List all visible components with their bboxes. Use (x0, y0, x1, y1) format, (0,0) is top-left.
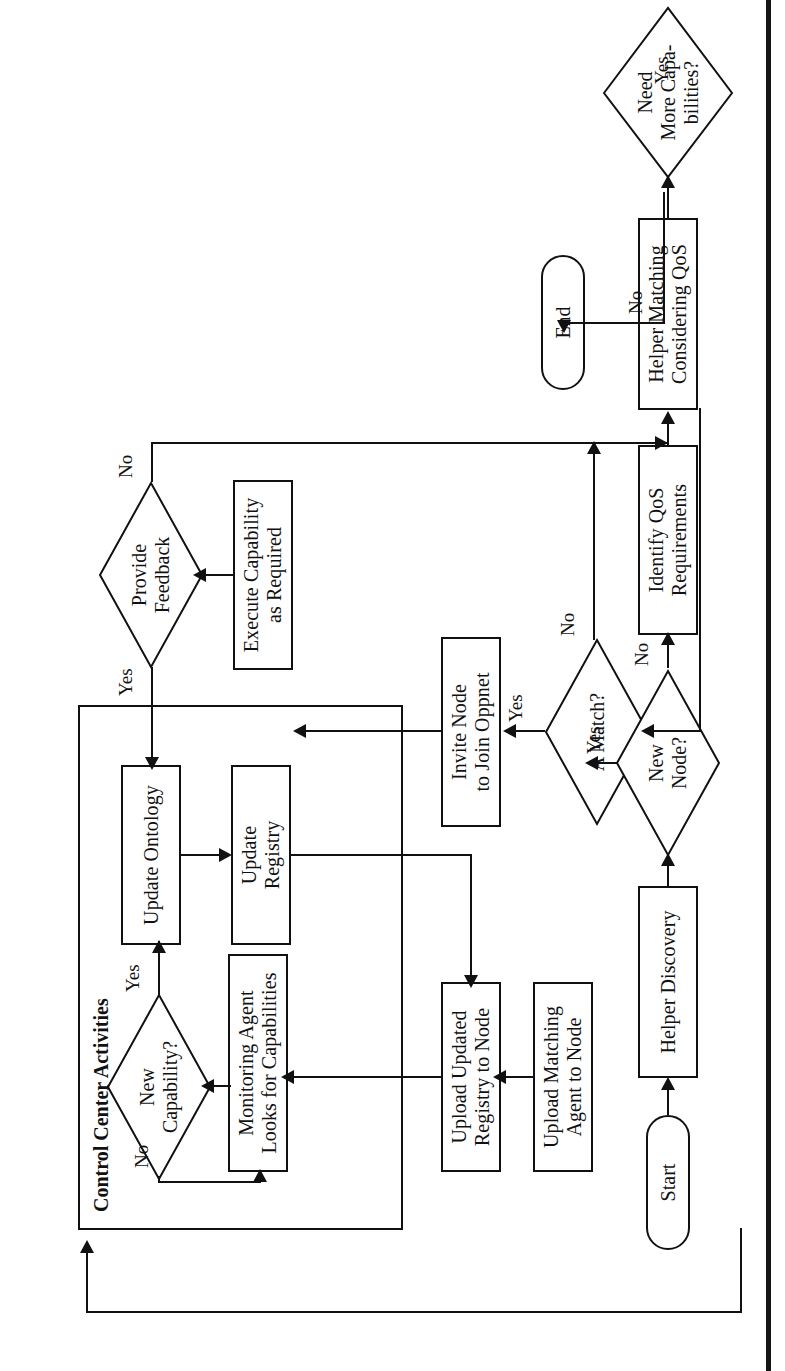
edge-need-more-yes-up-to-helper (86, 1250, 88, 1312)
arrowhead-new-node-no (661, 632, 675, 645)
edge-label-provide-feedback-yes: Yes (115, 668, 137, 696)
arrowhead-start-to-helper (661, 1077, 675, 1090)
edge-label-provide-feedback-no: No (115, 455, 137, 478)
edge-invite-to-execute (301, 730, 443, 732)
arrowhead-new-capability-no (253, 1169, 267, 1182)
edge-label-a-match-yes: Yes (505, 694, 527, 722)
arrowhead-helper-matching-to-a-match (641, 724, 654, 738)
edge-label-a-match-no: No (557, 613, 579, 636)
arrowhead-new-node-yes (585, 756, 598, 770)
edge-update-ontology-to-update-registry (181, 854, 223, 856)
arrowhead-a-match-yes (503, 724, 516, 738)
edge-label-new-capability-yes: Yes (122, 964, 144, 992)
node-update-ontology: Update Ontology (121, 765, 181, 945)
node-monitoring-agent: Monitoring Agent Looks for Capabilities (228, 954, 288, 1172)
arrowhead-invite-to-execute (293, 724, 306, 738)
flowchart-stage: Control Center Activities Monitoring Age… (0, 0, 785, 1371)
arrowhead-provide-feedback-yes (145, 757, 159, 770)
edge-provide-feedback-no-stub (151, 442, 153, 482)
arrowhead-new-capability-yes (152, 940, 166, 953)
node-update-registry-line1: Update (238, 826, 260, 884)
node-invite-node: Invite Node to Join Oppnet (441, 637, 501, 827)
edge-need-more-no-horizontal (663, 192, 665, 324)
node-upload-matching-agent: Upload Matching Agent to Node (533, 982, 593, 1172)
node-helper-discovery-label: Helper Discovery (657, 910, 680, 1053)
edge-upload-matching-to-upload-registry (501, 1076, 535, 1078)
figure-page: Control Center Activities Monitoring Age… (0, 0, 785, 1371)
edge-start-to-helper-discovery (667, 1088, 669, 1115)
node-upload-updated-registry-line1: Upload Updated (448, 1011, 470, 1144)
node-invite-node-line1: Invite Node (448, 684, 470, 780)
node-new-node: New Node? (614, 668, 722, 858)
edge-need-more-yes-horizontal (86, 1311, 742, 1313)
edge-update-registry-down (291, 854, 471, 856)
edge-label-new-node-yes: Yes (583, 726, 605, 754)
edge-need-more-no-vertical (586, 322, 664, 324)
node-upload-updated-registry: Upload Updated Registry to Node (441, 982, 501, 1172)
edge-a-match-yes (513, 730, 545, 732)
node-need-more-capabilities: Need More Capa- bilities? (601, 5, 735, 180)
edge-label-new-capability-no: No (131, 1145, 153, 1168)
edge-label-need-more-no: No (625, 291, 647, 314)
edge-helper-matching-to-a-match-horizontal (699, 408, 701, 732)
edge-need-more-no-up (563, 322, 588, 324)
arrowhead-helper-matching-to-need-more (661, 175, 675, 188)
node-identify-qos: Identify QoS Requirements (638, 445, 698, 635)
node-invite-node-line2: to Join Oppnet (471, 672, 493, 791)
edge-execute-to-provide-feedback (203, 574, 235, 576)
node-helper-discovery: Helper Discovery (638, 886, 698, 1078)
arrowhead-upload-matching-to-upload-registry (493, 1070, 506, 1084)
edge-provide-feedback-yes (151, 667, 153, 763)
arrowhead-upload-registry-to-monitoring (281, 1070, 294, 1084)
node-update-ontology-label: Update Ontology (140, 785, 163, 925)
edge-helper-matching-to-a-match (649, 730, 701, 732)
arrowhead-update-registry-to-upload-registry (464, 975, 478, 988)
node-upload-updated-registry-line2: Registry to Node (471, 1008, 493, 1146)
node-start: Start (646, 1115, 690, 1250)
edge-new-capability-no-vertical (158, 1181, 261, 1183)
arrowhead-helper-to-new-node (661, 853, 675, 866)
node-provide-feedback: Provide Feedback (97, 480, 205, 670)
node-start-label: Start (657, 1164, 680, 1202)
edge-new-node-yes (595, 762, 617, 764)
edge-label-new-node-no: No (631, 643, 653, 666)
arrowhead-update-ontology-to-update-registry (219, 848, 232, 862)
node-helper-matching: Helper Matching Considering QoS (638, 218, 698, 410)
node-identify-qos-line1: Identify QoS (645, 487, 667, 592)
node-execute-capability-line1: Execute Capability (240, 498, 262, 653)
node-update-registry-line2: Registry (261, 821, 283, 890)
arrowhead-a-match-no (587, 441, 601, 454)
edge-a-match-no (593, 442, 595, 640)
edge-upload-registry-to-monitoring (288, 1076, 443, 1078)
node-execute-capability: Execute Capability as Required (233, 480, 293, 670)
node-new-capability: New Capability? (105, 992, 213, 1182)
node-update-registry: Update Registry (231, 765, 291, 945)
arrowhead-need-more-yes-to-helper-discovery (80, 1240, 94, 1253)
arrowhead-identify-qos-to-helper-matching (661, 411, 675, 424)
flowchart-rotated-canvas: Control Center Activities Monitoring Age… (43, 0, 743, 1290)
node-monitoring-agent-line1: Monitoring Agent (235, 990, 257, 1136)
node-upload-matching-agent-line2: Agent to Node (563, 1017, 585, 1136)
node-monitoring-agent-line2: Looks for Capabilities (258, 972, 280, 1153)
arrowhead-monitoring-to-new-capability (201, 1079, 214, 1093)
edge-label-need-more-yes: Yes (651, 56, 673, 84)
node-helper-matching-line2: Considering QoS (668, 244, 690, 384)
edge-update-registry-left (470, 854, 472, 978)
arrowhead-execute-to-provide-feedback (193, 568, 206, 582)
edge-need-more-yes-vertical (740, 1228, 742, 1313)
node-upload-matching-agent-line1: Upload Matching (540, 1006, 562, 1148)
node-identify-qos-line2: Requirements (668, 484, 690, 596)
page-edge-rule (766, 0, 771, 1371)
edge-monitoring-to-new-capability (211, 1085, 231, 1087)
node-execute-capability-line2: as Required (263, 527, 285, 623)
